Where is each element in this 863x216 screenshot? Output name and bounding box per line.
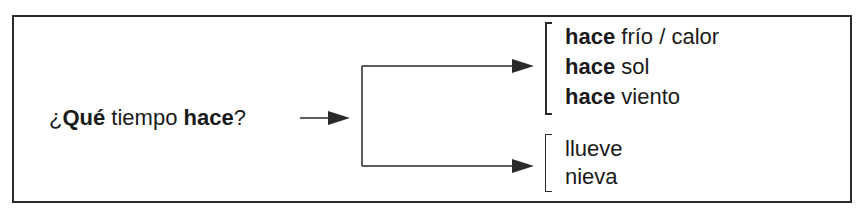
item-verb: hace: [565, 24, 615, 49]
branch-item: nieva: [565, 162, 622, 192]
item-verb: hace: [565, 54, 615, 79]
question-middle: tiempo: [105, 105, 183, 130]
arrowhead-top: [512, 59, 534, 73]
item-text: viento: [615, 84, 680, 109]
item-text: frío / calor: [615, 24, 719, 49]
bracket-top: [545, 22, 552, 115]
arrowhead-question: [328, 111, 350, 125]
question-label: ¿Qué tiempo hace?: [49, 103, 246, 133]
branch-item: hace viento: [565, 82, 719, 112]
question-bold-hace: hace: [184, 105, 234, 130]
question-suffix: ?: [234, 105, 246, 130]
branch-group-verbs: llueve nieva: [565, 134, 622, 192]
item-verb: hace: [565, 84, 615, 109]
question-bold-que: Qué: [62, 105, 105, 130]
item-text: sol: [615, 54, 649, 79]
branch-item: hace frío / calor: [565, 22, 719, 52]
branch-item: llueve: [565, 134, 622, 164]
question-prefix: ¿: [49, 105, 62, 130]
item-text: nieva: [565, 164, 618, 189]
bracket-bottom: [545, 134, 552, 192]
branch-group-hace: hace frío / calor hace sol hace viento: [565, 22, 719, 112]
arrowhead-bottom: [512, 159, 534, 173]
branch-item: hace sol: [565, 52, 719, 82]
item-text: llueve: [565, 136, 622, 161]
